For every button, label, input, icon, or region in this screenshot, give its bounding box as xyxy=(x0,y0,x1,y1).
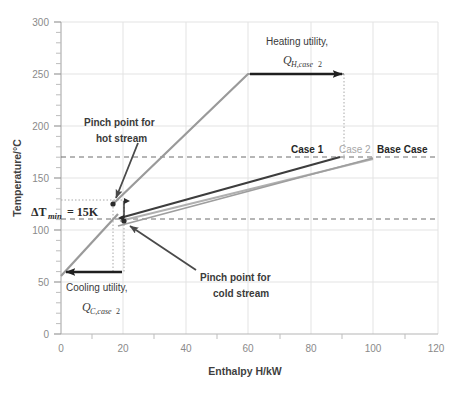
y-tick-0: 0 xyxy=(43,329,49,340)
cooling-utility-sub-italic: C,case xyxy=(90,307,112,316)
y-tick-50: 50 xyxy=(38,277,50,288)
y-axis-title: Temperature/°C xyxy=(11,139,23,217)
composite-curve-chart: 300 250 200 150 100 50 0 0 20 40 60 80 1… xyxy=(0,0,454,396)
delta-t-min-symbol: ΔT xyxy=(31,205,47,219)
heating-utility-symbol: Q H,case 2 xyxy=(283,53,322,69)
y-tick-150: 150 xyxy=(32,173,49,184)
pinch-point-hot-stream-marker xyxy=(110,201,115,206)
x-tick-40: 40 xyxy=(180,343,192,354)
x-tick-20: 20 xyxy=(117,343,129,354)
series-label-case-2: Case 2 xyxy=(339,144,371,155)
x-tick-100: 100 xyxy=(365,343,382,354)
x-axis-minor-ticks xyxy=(92,334,405,339)
cooling-utility-symbol: Q C,case 2 xyxy=(82,300,120,316)
x-axis-title: Enthalpy H/kW xyxy=(208,365,282,377)
pinch-cold-label-line1: Pinch point for xyxy=(200,272,271,283)
pinch-point-cold-stream-marker xyxy=(121,218,126,223)
y-tick-250: 250 xyxy=(32,69,49,80)
pinch-cold-label-line2: cold stream xyxy=(213,288,269,299)
x-tick-60: 60 xyxy=(242,343,254,354)
series-label-case-1: Case 1 xyxy=(291,144,324,155)
y-axis-major-ticks xyxy=(54,22,61,334)
x-tick-80: 80 xyxy=(305,343,317,354)
pinch-hot-label-line2: hot stream xyxy=(96,133,147,144)
x-tick-0: 0 xyxy=(58,343,64,354)
heating-utility-sub-italic: H,case xyxy=(290,60,313,69)
chart-page: 300 250 200 150 100 50 0 0 20 40 60 80 1… xyxy=(0,0,454,396)
y-axis-tick-labels: 300 250 200 150 100 50 0 xyxy=(32,17,49,340)
series-label-base-case: Base Case xyxy=(377,144,428,155)
cold-composite-curve xyxy=(61,214,118,276)
delta-t-min-sub: min xyxy=(48,211,62,221)
x-tick-120: 120 xyxy=(428,343,445,354)
hot-composite-curve xyxy=(113,74,344,204)
y-tick-200: 200 xyxy=(32,121,49,132)
cooling-utility-label-line1: Cooling utility, xyxy=(66,282,128,293)
heating-utility-label-line1: Heating utility, xyxy=(266,36,328,47)
y-tick-300: 300 xyxy=(32,17,49,28)
pinch-hot-label-line1: Pinch point for xyxy=(84,117,155,128)
delta-t-min-value: = 15K xyxy=(67,205,99,219)
heating-utility-sub-plain: 2 xyxy=(318,60,322,69)
x-axis-tick-labels: 0 20 40 60 80 100 120 xyxy=(58,343,445,354)
series-line-base-case xyxy=(118,158,373,226)
cooling-utility-sub-plain: 2 xyxy=(116,307,120,316)
y-tick-100: 100 xyxy=(32,225,49,236)
